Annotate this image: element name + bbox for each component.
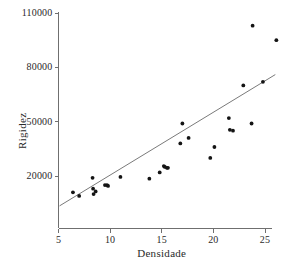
scatter-point [208,156,212,160]
x-tick-label: 25 [245,234,282,245]
x-tick-label: 20 [193,234,233,245]
x-tick-label: 10 [90,234,130,245]
regression-line [60,75,276,206]
scatter-point [166,166,170,170]
fit-line-segment [60,75,276,206]
scatter-point [251,24,255,28]
scatter-point [261,80,265,84]
scatter-point [147,177,151,181]
scatter-point [91,176,95,180]
scatter-point [106,184,110,188]
scatter-point [213,145,217,149]
plot-canvas [0,0,282,261]
y-tick-label: 20000 [2,170,53,181]
scatter-point [71,190,75,194]
scatter-point [94,189,98,193]
axes-group [59,12,273,229]
scatter-plot-figure: 200005000080000110000 510152025 Rigidez … [0,0,282,261]
scatter-point [227,116,231,120]
scatter-point [274,38,278,42]
scatter-point [77,194,81,198]
scatter-point [178,142,182,146]
scatter-point [181,122,185,126]
y-tick-label: 80000 [2,61,53,72]
y-axis-title: Rigidez [16,113,28,149]
axis-ticks [55,13,266,233]
scatter-point [158,170,162,174]
data-points [71,24,278,198]
x-tick-label: 15 [142,234,182,245]
x-tick-label: 5 [39,234,79,245]
scatter-point [250,122,254,126]
y-tick-label: 110000 [2,7,53,18]
x-axis-title: Densidade [122,247,202,259]
scatter-point [231,129,235,133]
scatter-point [187,136,191,140]
scatter-point [119,175,123,179]
scatter-point [241,84,245,88]
